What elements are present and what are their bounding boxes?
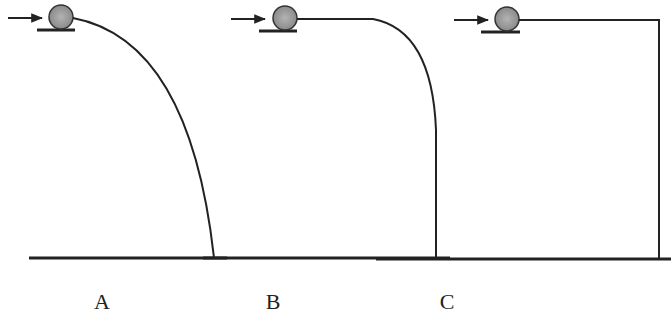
ball-icon bbox=[49, 5, 73, 29]
diagram-canvas bbox=[0, 0, 671, 328]
panel-label-c: C bbox=[440, 289, 455, 315]
trajectory-path bbox=[297, 19, 436, 258]
panel-b bbox=[203, 6, 450, 258]
trajectory-path bbox=[73, 18, 214, 258]
ball-icon bbox=[495, 7, 519, 31]
panel-label-a: A bbox=[94, 289, 110, 315]
panel-c bbox=[376, 7, 671, 259]
ball-icon bbox=[273, 6, 297, 30]
trajectory-path bbox=[519, 20, 659, 258]
panel-a bbox=[8, 5, 227, 258]
panel-label-b: B bbox=[266, 289, 281, 315]
